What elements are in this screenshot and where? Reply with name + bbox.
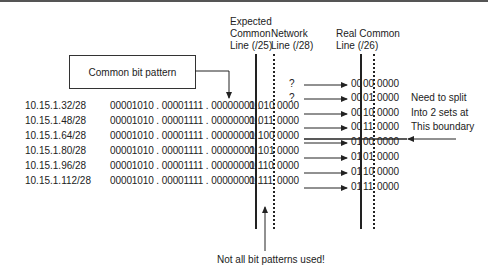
- callout-arrow-icon: [195, 71, 229, 98]
- arrows-layer: [0, 0, 488, 276]
